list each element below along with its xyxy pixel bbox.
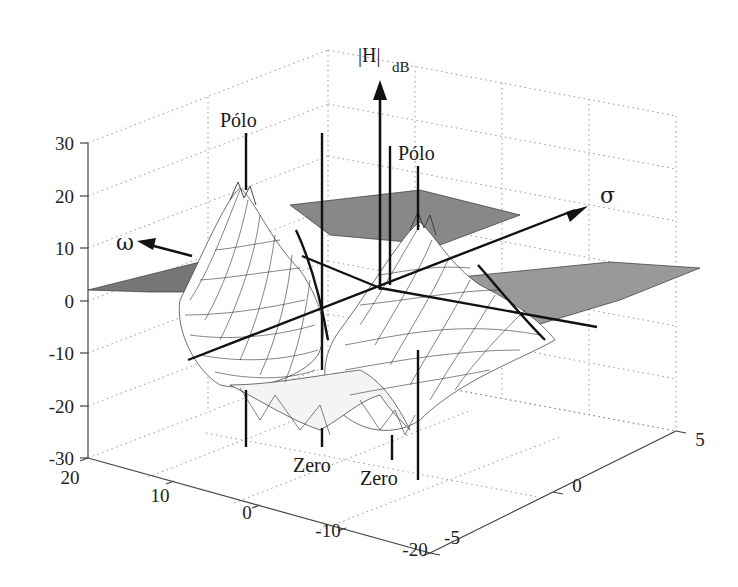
sigma-tick: 0 (572, 475, 582, 496)
omega-tick: 10 (151, 485, 170, 506)
omega-axis-line (150, 245, 192, 256)
sigma-arrow-icon (566, 206, 588, 222)
omega-label: ω (116, 230, 134, 255)
omega-tick: 0 (242, 502, 252, 523)
pole-label: Pólo (220, 109, 257, 131)
sigma-label: σ (600, 183, 615, 208)
z-tick: -30 (49, 448, 74, 469)
surface-mesh (88, 182, 700, 435)
sigma-tick: -5 (444, 527, 460, 548)
z-tick: 30 (55, 133, 74, 154)
z-tick: 10 (55, 238, 74, 259)
sigma-tick: 5 (695, 429, 705, 450)
zero-label: Zero (293, 454, 331, 476)
h-arrow-icon (373, 80, 387, 100)
z-tick: -20 (49, 396, 74, 417)
h-axis-label-sub: dB (392, 59, 410, 75)
sigma-tick-labels: -5 0 5 (444, 429, 705, 548)
h-axis-label: |H| (358, 44, 380, 67)
omega-tick: -20 (402, 539, 427, 560)
z-tick: 20 (55, 186, 74, 207)
omega-tick: -10 (315, 520, 340, 541)
plot-canvas: 30 20 10 0 -10 -20 -30 20 10 0 -10 -20 -… (0, 0, 738, 587)
z-tick-labels: 30 20 10 0 -10 -20 -30 (49, 133, 74, 469)
omega-arrow-icon (137, 238, 156, 250)
pole-label: Pólo (398, 142, 435, 164)
z-tick: -10 (49, 343, 74, 364)
surface-plot: 30 20 10 0 -10 -20 -30 20 10 0 -10 -20 -… (0, 0, 738, 587)
z-tick: 0 (65, 291, 75, 312)
zero-label: Zero (360, 467, 398, 489)
omega-tick: 20 (61, 467, 80, 488)
